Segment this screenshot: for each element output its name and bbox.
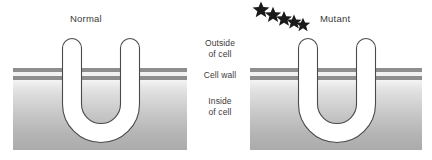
panel-title-mutant: Mutant [320,13,350,24]
label-inside-of-cell: Inside of cell [192,96,248,117]
inside-of-cell-region [250,80,422,150]
panel-mutant: Mutant [250,30,422,150]
label-outside-of-cell: Outside of cell [192,38,248,59]
outside-of-cell-region [13,30,187,68]
cell-wall-band-upper [13,68,187,72]
axis-label-column: Outside of cell Cell wall Inside of cell [192,30,248,150]
panel-normal: Normal [13,30,187,150]
cell-wall-band-upper [250,68,422,72]
outside-of-cell-region [250,30,422,68]
label-cell-wall: Cell wall [192,70,248,81]
mutation-star-group [252,0,316,34]
cell-transporter-diagram: Normal Outside of cell Cell wall Inside … [0,0,432,160]
inside-of-cell-region [13,80,187,150]
panel-title-normal: Normal [70,13,102,24]
star-icon [253,2,270,18]
